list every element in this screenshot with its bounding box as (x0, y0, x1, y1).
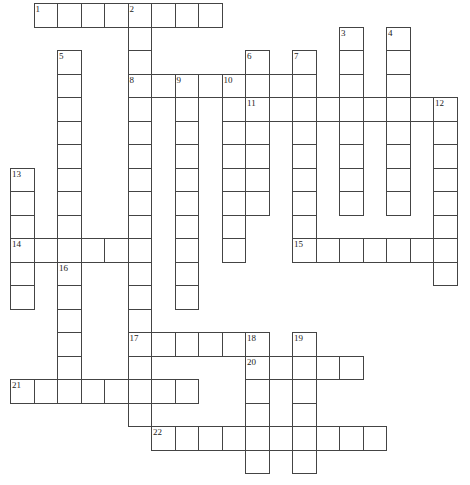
crossword-cell-numbered-18[interactable]: 18 (245, 332, 270, 357)
crossword-cell[interactable] (128, 238, 153, 263)
crossword-cell-numbered-17[interactable]: 17 (128, 332, 153, 357)
crossword-cell[interactable] (339, 356, 364, 381)
crossword-cell[interactable] (128, 50, 153, 75)
crossword-cell[interactable] (339, 74, 364, 99)
crossword-cell[interactable] (198, 3, 223, 28)
crossword-cell-numbered-22[interactable]: 22 (151, 426, 176, 451)
crossword-cell[interactable] (245, 403, 270, 428)
crossword-cell[interactable] (222, 144, 247, 169)
crossword-cell[interactable] (34, 379, 59, 404)
crossword-cell[interactable] (222, 238, 247, 263)
crossword-cell[interactable] (175, 262, 200, 287)
crossword-cell[interactable] (128, 27, 153, 52)
crossword-cell-numbered-9[interactable]: 9 (175, 74, 200, 99)
crossword-cell[interactable] (433, 238, 458, 263)
crossword-cell-numbered-16[interactable]: 16 (57, 262, 82, 287)
crossword-cell[interactable] (57, 191, 82, 216)
crossword-cell-numbered-3[interactable]: 3 (339, 27, 364, 52)
crossword-cell[interactable] (433, 144, 458, 169)
crossword-cell[interactable] (386, 121, 411, 146)
crossword-cell[interactable] (57, 238, 82, 263)
crossword-cell[interactable] (57, 121, 82, 146)
crossword-grid[interactable]: 12345678910111213141516171819202122 (0, 0, 470, 485)
crossword-cell[interactable] (292, 450, 317, 475)
crossword-cell[interactable] (57, 356, 82, 381)
crossword-cell[interactable] (292, 403, 317, 428)
crossword-cell[interactable] (57, 379, 82, 404)
crossword-cell[interactable] (433, 168, 458, 193)
crossword-cell[interactable] (386, 50, 411, 75)
crossword-cell[interactable] (316, 356, 341, 381)
crossword-cell-numbered-7[interactable]: 7 (292, 50, 317, 75)
crossword-cell[interactable] (222, 191, 247, 216)
crossword-cell-numbered-6[interactable]: 6 (245, 50, 270, 75)
crossword-cell[interactable] (386, 168, 411, 193)
crossword-cell[interactable] (339, 168, 364, 193)
crossword-cell[interactable] (245, 450, 270, 475)
crossword-cell[interactable] (104, 379, 129, 404)
crossword-cell[interactable] (175, 168, 200, 193)
crossword-cell[interactable] (128, 191, 153, 216)
crossword-cell-numbered-19[interactable]: 19 (292, 332, 317, 357)
crossword-cell[interactable] (128, 403, 153, 428)
crossword-cell[interactable] (386, 144, 411, 169)
crossword-cell[interactable] (269, 97, 294, 122)
crossword-cell[interactable] (128, 309, 153, 334)
crossword-cell[interactable] (433, 191, 458, 216)
crossword-cell[interactable] (57, 332, 82, 357)
crossword-cell[interactable] (433, 215, 458, 240)
crossword-cell[interactable] (292, 191, 317, 216)
crossword-cell[interactable] (57, 309, 82, 334)
crossword-cell[interactable] (292, 426, 317, 451)
crossword-cell[interactable] (57, 168, 82, 193)
crossword-cell[interactable] (34, 238, 59, 263)
crossword-cell-numbered-4[interactable]: 4 (386, 27, 411, 52)
crossword-cell[interactable] (151, 332, 176, 357)
crossword-cell[interactable] (386, 191, 411, 216)
crossword-cell[interactable] (339, 426, 364, 451)
crossword-cell-numbered-15[interactable]: 15 (292, 238, 317, 263)
crossword-cell[interactable] (339, 121, 364, 146)
crossword-cell[interactable] (339, 144, 364, 169)
crossword-cell-numbered-14[interactable]: 14 (10, 238, 35, 263)
crossword-cell[interactable] (57, 285, 82, 310)
crossword-cell[interactable] (198, 332, 223, 357)
crossword-cell[interactable] (128, 379, 153, 404)
crossword-cell[interactable] (151, 3, 176, 28)
crossword-cell-numbered-11[interactable]: 11 (245, 97, 270, 122)
crossword-cell[interactable] (292, 121, 317, 146)
crossword-cell[interactable] (222, 426, 247, 451)
crossword-cell[interactable] (128, 144, 153, 169)
crossword-cell-numbered-8[interactable]: 8 (128, 74, 153, 99)
crossword-cell-numbered-12[interactable]: 12 (433, 97, 458, 122)
crossword-cell[interactable] (57, 144, 82, 169)
crossword-cell[interactable] (175, 144, 200, 169)
crossword-cell[interactable] (245, 74, 270, 99)
crossword-cell[interactable] (222, 97, 247, 122)
crossword-cell[interactable] (316, 97, 341, 122)
crossword-cell[interactable] (245, 121, 270, 146)
crossword-cell[interactable] (81, 3, 106, 28)
crossword-cell[interactable] (316, 238, 341, 263)
crossword-cell[interactable] (128, 121, 153, 146)
crossword-cell[interactable] (363, 426, 388, 451)
crossword-cell[interactable] (363, 97, 388, 122)
crossword-cell[interactable] (151, 74, 176, 99)
crossword-cell[interactable] (175, 121, 200, 146)
crossword-cell[interactable] (81, 238, 106, 263)
crossword-cell[interactable] (269, 426, 294, 451)
crossword-cell[interactable] (245, 191, 270, 216)
crossword-cell[interactable] (175, 238, 200, 263)
crossword-cell[interactable] (339, 97, 364, 122)
crossword-cell[interactable] (128, 97, 153, 122)
crossword-cell[interactable] (128, 215, 153, 240)
crossword-cell[interactable] (339, 50, 364, 75)
crossword-cell[interactable] (245, 426, 270, 451)
crossword-cell[interactable] (128, 262, 153, 287)
crossword-cell[interactable] (57, 3, 82, 28)
crossword-cell-numbered-20[interactable]: 20 (245, 356, 270, 381)
crossword-cell[interactable] (433, 262, 458, 287)
crossword-cell[interactable] (175, 285, 200, 310)
crossword-cell[interactable] (175, 332, 200, 357)
crossword-cell[interactable] (81, 379, 106, 404)
